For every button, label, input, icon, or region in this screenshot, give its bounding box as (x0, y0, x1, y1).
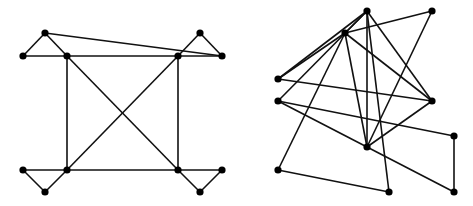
edge-E-G (278, 101, 367, 147)
edge-G-K (367, 147, 454, 192)
node-K (450, 188, 457, 195)
node-L4 (174, 52, 181, 59)
edge-B-G (367, 11, 432, 147)
node-L1 (19, 52, 26, 59)
node-J (385, 188, 392, 195)
edge-L5-L6 (200, 33, 222, 56)
node-B (428, 7, 435, 14)
graph-drawing (0, 0, 473, 206)
node-F (428, 97, 435, 104)
edge-A-D (278, 11, 367, 79)
node-L2 (41, 29, 48, 36)
edge-L10-L11 (178, 170, 200, 192)
node-G (363, 143, 370, 150)
edge-L2-L6 (45, 33, 222, 56)
edge-I-J (278, 170, 389, 192)
left-graph (19, 29, 225, 195)
node-L8 (41, 188, 48, 195)
diagram-canvas (0, 0, 473, 206)
node-D (274, 75, 281, 82)
node-E (274, 97, 281, 104)
node-H (450, 132, 457, 139)
node-L9 (63, 166, 70, 173)
edge-L11-L12 (200, 170, 222, 192)
edge-F-G (367, 101, 432, 147)
right-graph (274, 7, 457, 195)
edge-L8-L9 (45, 170, 67, 192)
edge-L2-L3 (45, 33, 67, 56)
node-L12 (218, 166, 225, 173)
node-L11 (196, 188, 203, 195)
edge-E-H (278, 101, 454, 136)
node-L6 (218, 52, 225, 59)
node-L5 (196, 29, 203, 36)
node-A (363, 7, 370, 14)
node-C (341, 29, 348, 36)
node-I (274, 166, 281, 173)
edge-L7-L8 (23, 170, 45, 192)
node-L10 (174, 166, 181, 173)
node-L7 (19, 166, 26, 173)
node-L3 (63, 52, 70, 59)
edge-B-C (345, 11, 432, 33)
edge-A-E (278, 11, 367, 101)
edge-L1-L2 (23, 33, 45, 56)
edge-C-D (278, 33, 345, 79)
